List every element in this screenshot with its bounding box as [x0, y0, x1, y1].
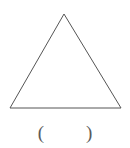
answer-input-area[interactable] [44, 132, 86, 133]
figure-container: ( ) [0, 0, 130, 148]
triangle-outline-shape [10, 14, 121, 108]
close-paren: ) [86, 123, 92, 142]
answer-blank[interactable]: ( ) [0, 119, 130, 145]
